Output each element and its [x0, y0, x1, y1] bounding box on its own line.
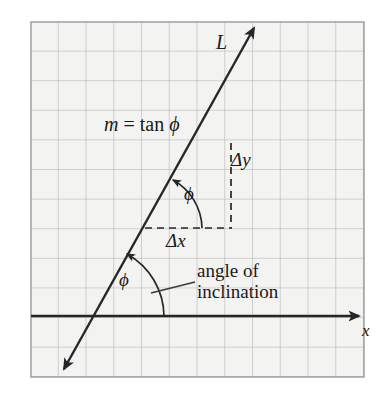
delta-y-label: Δy [231, 150, 251, 169]
x-axis-label: x [362, 322, 370, 339]
angle-of-inclination-line2: inclination [197, 281, 278, 302]
slope-equation: m = tan ϕ [104, 114, 180, 134]
figure-canvas: L x m = tan ϕ Δy Δx ϕ ϕ angle of inclina… [0, 0, 386, 395]
slope-symbol-m: m [104, 113, 118, 135]
angle-of-inclination-label: angle of inclination [197, 260, 278, 302]
phi-upper-label: ϕ [184, 184, 194, 203]
angle-of-inclination-line1: angle of [197, 260, 278, 281]
delta-glyph-y: Δy [231, 149, 251, 170]
grid [31, 22, 364, 377]
delta-glyph-x: Δx [166, 230, 186, 251]
phi-symbol: ϕ [169, 113, 179, 135]
tan-function: tan [140, 113, 164, 135]
phi-lower-label: ϕ [119, 270, 129, 289]
line-label-L: L [216, 32, 227, 52]
equals-sign: = [123, 113, 134, 135]
delta-x-label: Δx [166, 231, 186, 250]
